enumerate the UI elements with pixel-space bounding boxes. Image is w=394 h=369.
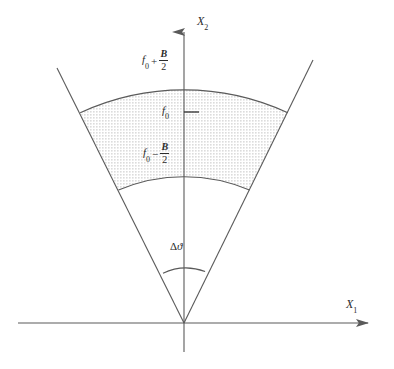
center-frequency-label: f0 [162, 105, 169, 119]
upper-band-edge-denominator: 2 [160, 61, 167, 72]
lower-band-edge-numerator: B [160, 142, 169, 153]
x2-axis-label-subscript: 2 [204, 23, 208, 32]
x1-axis-label: X1 [346, 298, 357, 313]
lower-band-edge-label: f0−B2 [143, 143, 169, 166]
angular-aperture-label: Δϑ [170, 241, 182, 252]
upper-band-edge-fraction: B2 [159, 49, 168, 72]
upper-band-edge-label: f0+B2 [142, 50, 168, 73]
lower-band-edge-denominator: 2 [161, 154, 168, 165]
center-frequency-base: f0 [162, 105, 169, 119]
upper-band-edge-base: f0 [142, 54, 149, 68]
figure-canvas: X2 X1 f0+B2 f0 f0−B2 Δϑ [0, 0, 394, 369]
upper-band-edge-operator: + [151, 56, 157, 67]
x1-axis-label-subscript: 1 [353, 306, 357, 315]
lower-band-edge-fraction: B2 [160, 142, 169, 165]
x2-axis-label: X2 [197, 15, 208, 30]
sector-diagram-svg [0, 0, 394, 369]
angular-aperture-theta: ϑ [177, 240, 182, 252]
upper-band-edge-numerator: B [159, 49, 168, 60]
lower-band-edge-base: f0 [143, 147, 150, 161]
lower-band-edge-operator: − [152, 149, 158, 160]
